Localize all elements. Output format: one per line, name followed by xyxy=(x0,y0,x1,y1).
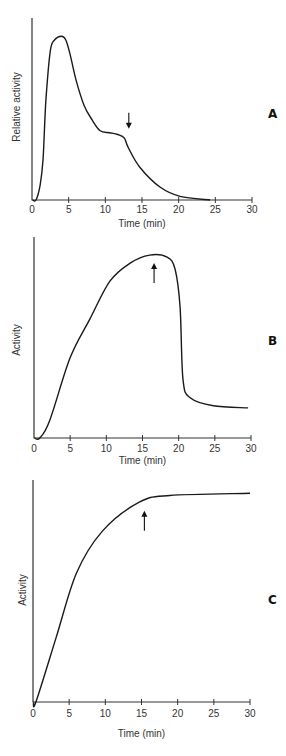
x-tick-label: 15 xyxy=(136,204,148,215)
x-axis-label: Time (min) xyxy=(119,455,166,466)
x-tick-label: 5 xyxy=(66,708,72,719)
axes xyxy=(33,480,250,702)
activity-curve xyxy=(33,36,211,201)
x-tick-label: 25 xyxy=(208,708,220,719)
x-tick-label: 30 xyxy=(244,708,256,719)
x-tick-label: 5 xyxy=(66,204,72,215)
panel-label: A xyxy=(268,107,278,121)
enzyme-activity-figure: 051015202530Time (min)Relative activityA… xyxy=(0,0,286,756)
x-tick-label: 15 xyxy=(137,443,149,454)
x-tick-label: 20 xyxy=(173,443,185,454)
x-tick-label: 15 xyxy=(136,708,148,719)
x-tick-label: 30 xyxy=(245,443,257,454)
y-axis-label: Activity xyxy=(11,324,22,356)
x-tick-label: 25 xyxy=(210,204,222,215)
panel-label: C xyxy=(268,593,277,607)
arrow-down-icon xyxy=(126,113,132,129)
chart-panel-a: 051015202530Time (min)Relative activityA xyxy=(11,18,278,229)
x-axis-label: Time (min) xyxy=(118,218,165,229)
arrow-up-icon xyxy=(151,263,157,283)
activity-curve xyxy=(33,493,250,706)
chart-panel-b: 051015202530Time (min)ActivityB xyxy=(11,237,277,466)
activity-curve xyxy=(35,255,249,440)
x-tick-label: 20 xyxy=(173,204,185,215)
x-tick-label: 20 xyxy=(172,708,184,719)
x-tick-label: 0 xyxy=(29,204,35,215)
x-tick-label: 0 xyxy=(30,708,36,719)
panel-label: B xyxy=(268,334,277,348)
x-tick-label: 10 xyxy=(100,708,112,719)
x-tick-label: 10 xyxy=(100,204,112,215)
arrow-up-icon xyxy=(141,511,147,531)
axes xyxy=(32,18,252,200)
y-axis-label: Activity xyxy=(17,574,28,606)
x-tick-label: 30 xyxy=(246,204,258,215)
axes xyxy=(34,237,251,438)
figure-caption-fragment xyxy=(0,744,286,756)
x-tick-label: 10 xyxy=(101,443,113,454)
x-tick-label: 0 xyxy=(31,443,37,454)
x-axis-label: Time (min) xyxy=(118,728,165,739)
x-tick-label: 25 xyxy=(209,443,221,454)
x-tick-label: 5 xyxy=(67,443,73,454)
y-axis-label: Relative activity xyxy=(11,72,22,141)
chart-panel-c: 051015202530Time (min)ActivityC xyxy=(17,480,277,739)
